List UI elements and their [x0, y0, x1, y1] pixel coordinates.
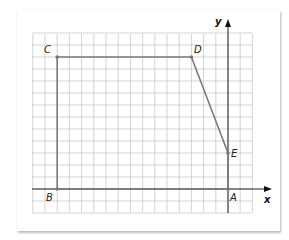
label-C: C [44, 44, 51, 55]
grid-lines [32, 33, 252, 213]
vertex-E [226, 151, 230, 155]
label-B: B [46, 192, 53, 203]
vertex-C [55, 55, 59, 59]
x-axis-label: x [263, 194, 271, 205]
label-D: D [194, 44, 202, 55]
vertex-D [190, 55, 194, 59]
label-E: E [231, 148, 238, 159]
x-axis-arrow-icon [264, 186, 272, 192]
vertex-B [55, 187, 59, 191]
coordinate-diagram: C D E A B x y [0, 0, 289, 240]
y-axis-arrow-icon [225, 19, 231, 27]
y-axis-label: y [215, 16, 222, 27]
vertex-A [226, 187, 230, 191]
label-A: A [229, 192, 237, 203]
